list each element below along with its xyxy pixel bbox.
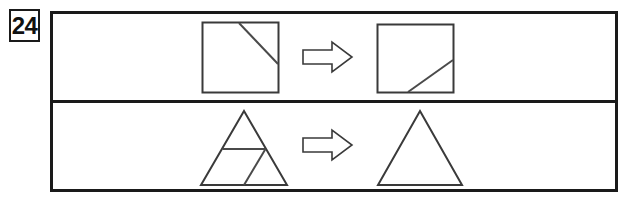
- right-arrow-icon: [302, 128, 354, 162]
- slanted-divider-line: [244, 149, 266, 185]
- triangle-subdivided: [198, 108, 290, 188]
- diagonal-line: [239, 23, 278, 64]
- triangle-transformation-row: [53, 103, 615, 189]
- question-number-box: 24: [9, 9, 40, 42]
- arrow-glyph: [303, 130, 352, 160]
- problem-frame: [50, 11, 618, 192]
- right-arrow-icon: [302, 40, 354, 74]
- square-with-diagonal-bottom-right: [376, 23, 456, 95]
- question-number-text: 24: [12, 14, 38, 38]
- arrow-glyph: [303, 42, 352, 72]
- square-transformation-row: [53, 14, 615, 103]
- problem-screenshot: 24: [0, 0, 627, 203]
- square-with-diagonal-top-right: [201, 21, 281, 95]
- diagonal-line: [408, 60, 453, 92]
- triangle-outline: [378, 111, 462, 185]
- square-outline: [203, 23, 279, 93]
- square-outline: [378, 25, 454, 93]
- triangle-plain: [375, 108, 467, 188]
